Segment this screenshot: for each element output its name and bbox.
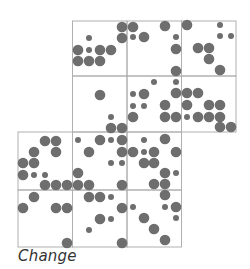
small-dot bbox=[108, 137, 114, 143]
large-dot bbox=[18, 203, 29, 214]
dot-grid-diagram bbox=[0, 0, 250, 269]
large-dot bbox=[73, 180, 84, 191]
grid-lines bbox=[18, 21, 236, 247]
large-dot bbox=[193, 112, 204, 123]
large-dot bbox=[160, 179, 171, 190]
large-dot bbox=[149, 147, 160, 158]
small-dot bbox=[130, 34, 136, 40]
large-dot bbox=[106, 123, 117, 134]
small-dot bbox=[108, 160, 114, 166]
large-dot bbox=[160, 168, 171, 179]
large-dot bbox=[95, 135, 106, 146]
small-dot bbox=[228, 33, 234, 39]
small-dot bbox=[217, 22, 223, 28]
large-dot bbox=[139, 213, 150, 224]
large-dot bbox=[215, 65, 226, 76]
large-dot bbox=[84, 56, 95, 67]
small-dot bbox=[173, 170, 179, 176]
large-dot bbox=[171, 112, 182, 123]
small-dot bbox=[108, 216, 114, 222]
large-dot bbox=[95, 90, 106, 101]
small-dot bbox=[184, 114, 190, 120]
small-dot bbox=[173, 79, 179, 85]
grid-cell bbox=[73, 76, 128, 132]
small-dot bbox=[141, 137, 147, 143]
large-dot bbox=[171, 44, 182, 55]
large-dot bbox=[117, 180, 128, 191]
large-dot bbox=[95, 45, 106, 56]
large-dot bbox=[215, 112, 226, 123]
large-dot bbox=[204, 112, 215, 123]
small-dot bbox=[42, 172, 48, 178]
large-dot bbox=[171, 147, 182, 158]
large-dot bbox=[204, 100, 215, 111]
large-dot bbox=[128, 112, 139, 123]
large-dot bbox=[149, 224, 160, 235]
large-dot bbox=[139, 89, 150, 100]
large-dot bbox=[51, 136, 62, 147]
large-dot bbox=[117, 22, 128, 33]
large-dot bbox=[204, 54, 215, 65]
large-dot bbox=[73, 56, 84, 67]
large-dot bbox=[160, 112, 171, 123]
large-dot bbox=[128, 22, 139, 33]
small-dot bbox=[108, 114, 114, 120]
large-dot bbox=[51, 203, 62, 214]
small-dot bbox=[119, 160, 125, 166]
large-dot bbox=[149, 179, 160, 190]
small-dot bbox=[86, 227, 92, 233]
large-dot bbox=[95, 214, 106, 225]
large-dot bbox=[117, 33, 128, 44]
large-dot bbox=[160, 235, 171, 246]
large-dot bbox=[40, 136, 51, 147]
large-dot bbox=[160, 21, 171, 32]
large-dot bbox=[117, 147, 128, 158]
small-dot bbox=[173, 215, 179, 221]
caption-label: Change bbox=[18, 247, 77, 265]
large-dot bbox=[160, 134, 171, 145]
large-dot bbox=[160, 190, 171, 201]
large-dot bbox=[160, 100, 171, 111]
large-dot bbox=[117, 203, 128, 214]
small-dot bbox=[151, 79, 157, 85]
small-dot bbox=[130, 204, 136, 210]
large-dot bbox=[182, 20, 193, 31]
large-dot bbox=[84, 147, 95, 158]
large-dot bbox=[193, 88, 204, 99]
large-dot bbox=[84, 180, 95, 191]
large-dot bbox=[73, 168, 84, 179]
small-dot bbox=[86, 47, 92, 53]
large-dot bbox=[95, 192, 106, 203]
large-dot bbox=[29, 158, 40, 169]
small-dot bbox=[75, 137, 81, 143]
large-dot bbox=[117, 135, 128, 146]
large-dot bbox=[51, 180, 62, 191]
large-dot bbox=[106, 45, 117, 56]
large-dot bbox=[215, 100, 226, 111]
large-dot bbox=[117, 123, 128, 134]
large-dot bbox=[182, 88, 193, 99]
small-dot bbox=[162, 204, 168, 210]
small-dot bbox=[31, 172, 37, 178]
large-dot bbox=[182, 100, 193, 111]
large-dot bbox=[139, 158, 150, 169]
small-dot bbox=[130, 103, 136, 109]
small-dot bbox=[141, 103, 147, 109]
large-dot bbox=[171, 202, 182, 213]
large-dot bbox=[171, 66, 182, 77]
large-dot bbox=[117, 238, 128, 249]
large-dot bbox=[29, 147, 40, 158]
large-dot bbox=[204, 43, 215, 54]
large-dot bbox=[62, 203, 73, 214]
large-dot bbox=[171, 88, 182, 99]
large-dot bbox=[29, 192, 40, 203]
large-dot bbox=[193, 43, 204, 54]
large-dot bbox=[18, 170, 29, 181]
large-dot bbox=[73, 45, 84, 56]
large-dot bbox=[149, 158, 160, 169]
small-dot bbox=[141, 149, 147, 155]
large-dot bbox=[226, 122, 237, 133]
large-dot bbox=[40, 180, 51, 191]
small-dot bbox=[173, 34, 179, 40]
small-dot bbox=[86, 35, 92, 41]
